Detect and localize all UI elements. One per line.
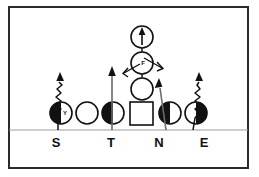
position-label-E: E (194, 136, 214, 150)
offense-fullback-label: F (138, 60, 148, 67)
offense-quarterback-circle (131, 78, 153, 100)
diagram-root: S T N E Y F (0, 0, 259, 177)
defender-E-fill-right (196, 102, 207, 124)
offense-center-square (130, 102, 153, 125)
route-E-arrowhead (195, 72, 203, 81)
defender-S-inner-label: Y (60, 110, 70, 117)
position-label-T: T (101, 136, 121, 150)
route-N-arrowhead (155, 78, 163, 88)
route-S-arrowhead (56, 72, 64, 81)
field-canvas (0, 0, 259, 177)
position-label-S: S (46, 136, 66, 150)
position-label-N: N (149, 136, 169, 150)
defender-open-circle (76, 102, 98, 124)
route-T-arrowhead (108, 66, 116, 76)
